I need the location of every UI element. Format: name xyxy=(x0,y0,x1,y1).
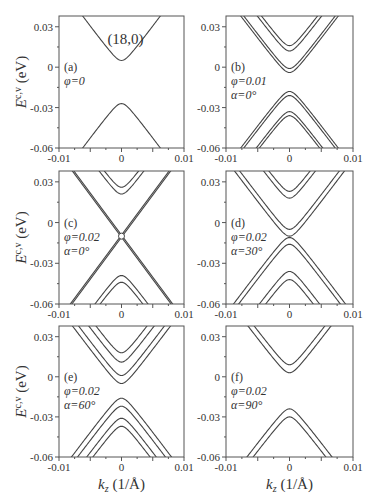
x-tick-label: 0 xyxy=(119,152,125,164)
y-tick-label: 0.03 xyxy=(34,176,54,188)
alpha-label: α=0° xyxy=(64,244,89,258)
panel-label: (a) xyxy=(64,60,77,74)
phi-label: φ=0 xyxy=(64,74,85,88)
x-tick-label: 0 xyxy=(287,152,293,164)
phi-label: φ=0.01 xyxy=(231,74,267,88)
alpha-label: α=0° xyxy=(231,88,256,102)
y-tick-label: -0.03 xyxy=(30,257,53,269)
y-tick-label: 0.03 xyxy=(201,331,221,343)
x-axis-label: kz (1/Å) xyxy=(266,476,313,494)
x-tick-label: -0.01 xyxy=(215,461,238,473)
y-tick-label: -0.03 xyxy=(197,102,220,114)
band-structure-figure: 0.030-0.03-0.06-0.0100.01(a)φ=0(18,0)Ec,… xyxy=(0,0,377,504)
x-tick-label: 0.01 xyxy=(174,308,193,320)
x-tick-label: -0.01 xyxy=(48,152,71,164)
alpha-label: α=90° xyxy=(231,398,262,412)
y-axis-label: Ec,v (eV) xyxy=(12,365,30,418)
x-axis-label: kz (1/Å) xyxy=(98,476,145,494)
x-tick-label: 0.01 xyxy=(174,152,193,164)
y-tick-label: 0 xyxy=(215,217,221,229)
y-tick-label: 0 xyxy=(48,371,54,383)
y-tick-label: -0.03 xyxy=(197,257,220,269)
panel-label: (c) xyxy=(64,216,77,230)
alpha-label: α=30° xyxy=(231,244,262,258)
x-tick-label: 0 xyxy=(287,461,293,473)
panel-label: (f) xyxy=(231,370,243,384)
panel-f: 0.030-0.03-0.06-0.0100.01(f)φ=0.02α=90°k… xyxy=(197,290,363,494)
y-axis-label: Ec,v (eV) xyxy=(12,56,30,109)
phi-label: φ=0.02 xyxy=(64,230,100,244)
phi-label: φ=0.02 xyxy=(231,230,267,244)
y-axis-label: Ec,v (eV) xyxy=(12,211,30,264)
panel-e: 0.030-0.03-0.06-0.0100.01(e)φ=0.02α=60°E… xyxy=(12,277,194,501)
x-tick-label: 0.01 xyxy=(343,152,362,164)
y-tick-label: 0 xyxy=(48,217,54,229)
chirality-title: (18,0) xyxy=(107,31,143,48)
y-tick-label: -0.03 xyxy=(197,411,220,423)
x-tick-label: 0.01 xyxy=(343,461,362,473)
y-tick-label: -0.03 xyxy=(30,102,53,114)
y-tick-label: 0 xyxy=(48,61,54,73)
y-tick-label: 0 xyxy=(215,61,221,73)
x-tick-label: 0 xyxy=(119,308,125,320)
panel-label: (b) xyxy=(231,60,245,74)
y-tick-label: 0.03 xyxy=(34,21,54,33)
x-tick-label: 0.01 xyxy=(174,461,193,473)
x-tick-label: -0.01 xyxy=(48,308,71,320)
panel-b: 0.030-0.03-0.06-0.0100.01(b)φ=0.01α=0° xyxy=(197,0,363,191)
x-tick-label: 0 xyxy=(287,308,293,320)
x-tick-label: -0.01 xyxy=(48,461,71,473)
y-tick-label: 0.03 xyxy=(201,21,221,33)
y-tick-label: -0.03 xyxy=(30,411,53,423)
x-tick-label: -0.01 xyxy=(215,308,238,320)
panel-a: 0.030-0.03-0.06-0.0100.01(a)φ=0(18,0)Ec,… xyxy=(12,0,194,179)
x-tick-label: 0.01 xyxy=(343,308,362,320)
panel-label: (e) xyxy=(64,370,77,384)
x-tick-label: -0.01 xyxy=(215,152,238,164)
alpha-label: α=60° xyxy=(64,398,95,412)
y-tick-label: 0.03 xyxy=(34,331,54,343)
phi-label: φ=0.02 xyxy=(231,384,267,398)
y-tick-label: 0 xyxy=(215,371,221,383)
y-tick-label: 0.03 xyxy=(201,176,221,188)
panel-label: (d) xyxy=(231,216,245,230)
phi-label: φ=0.02 xyxy=(64,384,100,398)
x-tick-label: 0 xyxy=(119,461,125,473)
